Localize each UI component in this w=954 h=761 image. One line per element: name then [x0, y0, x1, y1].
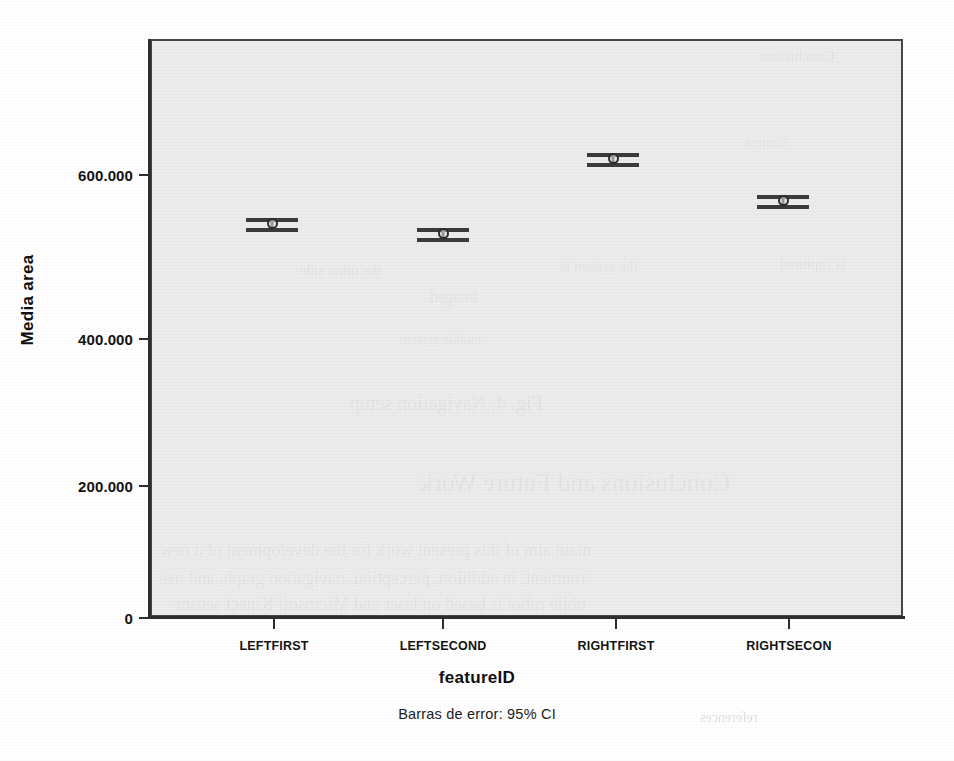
y-tick-label: 0: [0, 610, 133, 627]
y-axis-title: Media area: [18, 255, 38, 346]
x-tick-label: LEFTSECOND: [400, 639, 487, 653]
mean-marker: [778, 195, 789, 206]
x-tick-mark: [273, 618, 275, 629]
mean-marker: [438, 228, 449, 239]
y-tick-label: 600.000: [0, 167, 133, 184]
x-tick-label: RIGHTSECON: [746, 639, 831, 653]
x-tick-mark: [442, 618, 444, 629]
mean-marker: [267, 218, 278, 229]
chart-caption: Barras de error: 95% CI: [0, 706, 954, 722]
x-axis-title: featureID: [0, 668, 954, 688]
x-axis-line: [148, 616, 905, 619]
y-axis-line: [148, 39, 151, 619]
y-tick-mark: [139, 485, 150, 487]
y-tick-mark: [139, 174, 150, 176]
y-tick-mark: [139, 617, 150, 619]
y-tick-mark: [139, 338, 150, 340]
x-tick-mark: [615, 618, 617, 629]
plot-area: [150, 39, 903, 617]
x-tick-label: RIGHTFIRST: [578, 639, 655, 653]
x-tick-mark: [788, 618, 790, 629]
x-tick-label: LEFTFIRST: [239, 639, 308, 653]
mean-marker: [608, 153, 619, 164]
y-tick-label: 200.000: [0, 478, 133, 495]
error-bar-chart: 600.000400.000200.0000 LEFTFIRSTLEFTSECO…: [0, 0, 954, 761]
